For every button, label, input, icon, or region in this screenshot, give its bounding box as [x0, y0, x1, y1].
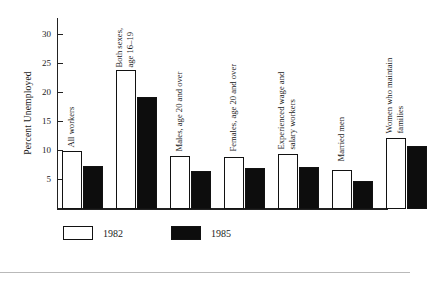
plot-area: All workers Both sexes, age 16–19 Males,… — [58, 18, 388, 209]
y-tick-label-5: 5 — [47, 174, 52, 184]
bar-1982-experienced-wage-salary — [278, 154, 298, 210]
bar-group-males-20-over: Males, age 20 and over — [170, 18, 214, 209]
bottom-rule — [0, 272, 410, 273]
bar-1982-both-sexes-16-19 — [116, 70, 136, 209]
bar-group-married-men: Married men — [332, 18, 376, 209]
legend-label-1985: 1985 — [211, 228, 231, 239]
category-label-experienced-wage-salary-line2: salary workers — [287, 99, 298, 149]
legend-label-1982: 1982 — [103, 228, 123, 239]
bar-group-experienced-wage-salary: Experienced wage and salary workers — [278, 18, 322, 209]
y-tick-label-30: 30 — [42, 29, 51, 39]
bar-1985-married-men — [353, 181, 373, 209]
bar-group-females-20-over: Females, age 20 and over — [224, 18, 268, 209]
bar-1982-females-20-over — [224, 157, 244, 209]
y-tick-label-15: 15 — [42, 116, 51, 126]
category-label-women-maintain-families-line1: Women who maintain — [384, 57, 395, 133]
legend-swatch-1982 — [63, 226, 93, 240]
bar-1982-all-workers — [62, 151, 82, 209]
category-label-all-workers-line1: All workers — [66, 106, 77, 147]
bar-1982-women-maintain-families — [386, 138, 406, 209]
category-label-experienced-wage-salary-line1: Experienced wage and — [276, 71, 287, 149]
y-axis-title: Percent Unemployed — [23, 43, 33, 183]
category-label-males-20-over-line1: Males, age 20 and over — [174, 71, 185, 151]
bar-1985-both-sexes-16-19 — [137, 97, 157, 209]
bar-1982-males-20-over — [170, 156, 190, 209]
category-label-women-maintain-families-line2: families — [395, 105, 406, 133]
y-tick-label-10: 10 — [42, 145, 51, 155]
category-label-both-sexes-16-19-line2: age 16–19 — [125, 31, 136, 67]
category-label-married-men-line1: Married men — [336, 116, 347, 161]
y-tick-label-25: 25 — [42, 58, 51, 68]
bar-group-both-sexes-16-19: Both sexes, age 16–19 — [116, 18, 160, 209]
legend-swatch-1985 — [171, 226, 201, 240]
bar-1985-males-20-over — [191, 171, 211, 209]
y-tick-label-20: 20 — [42, 87, 51, 97]
legend: 1982 1985 — [63, 226, 231, 240]
bar-group-women-maintain-families: Women who maintain families — [386, 18, 430, 209]
bar-1985-experienced-wage-salary — [299, 167, 319, 209]
bar-1982-married-men — [332, 170, 352, 209]
category-label-both-sexes-16-19-line1: Both sexes, — [114, 27, 125, 67]
legend-item-1985: 1985 — [171, 226, 231, 240]
bar-1985-females-20-over — [245, 168, 265, 209]
legend-item-1982: 1982 — [63, 226, 123, 240]
bar-1985-women-maintain-families — [407, 146, 427, 209]
category-label-females-20-over-line1: Females, age 20 and over — [228, 63, 239, 151]
bar-1985-all-workers — [83, 166, 103, 209]
bar-group-all-workers: All workers — [62, 18, 106, 209]
